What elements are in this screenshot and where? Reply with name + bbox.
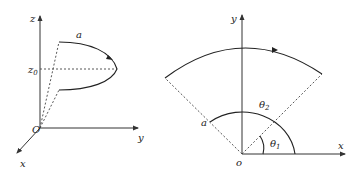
origin-label: O [32, 124, 40, 135]
theta2-label: θ2 [259, 99, 270, 112]
origin-label: o [236, 157, 242, 168]
theta1-angle-arc [260, 136, 264, 154]
z0-label: z0 [27, 64, 38, 77]
theta1-label: θ1 [270, 138, 281, 151]
x-axis-label: x [338, 140, 344, 151]
dashed-ray-theta1 [242, 74, 322, 154]
outer-arc [165, 48, 322, 78]
curve-radius-label: a [76, 29, 82, 40]
radius-label: a [201, 117, 207, 128]
curve-direction-arrow-icon [106, 55, 113, 60]
theta2-angle-arc [210, 112, 295, 154]
dashed-ray-theta2 [165, 78, 242, 154]
z-axis-label: z [29, 13, 36, 24]
figure: z y x O z0 a y x o a θ2 θ1 [0, 0, 354, 174]
y-axis-label: y [137, 132, 144, 143]
semicircle-curve [59, 42, 117, 90]
dashed-ray-lower [40, 90, 59, 128]
dashed-ray-upper [40, 42, 59, 128]
y-axis-label: y [230, 13, 237, 24]
left-3d-diagram: z y x O z0 a [17, 13, 144, 169]
x-axis-label: x [20, 158, 26, 169]
right-polar-diagram: y x o a θ2 θ1 [165, 13, 345, 168]
